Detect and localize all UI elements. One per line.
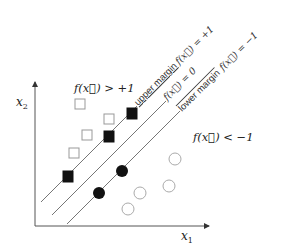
support-vector-square <box>127 108 137 119</box>
svg-text:f(x⃗) = +1: f(x⃗) = +1 <box>172 23 216 67</box>
open-circle-point <box>163 180 175 192</box>
support-vector-square <box>63 171 73 182</box>
filled-circles <box>93 165 128 199</box>
open-circles <box>122 153 181 215</box>
y-axis-label: x2 <box>16 95 28 111</box>
open-square-point <box>69 148 79 158</box>
svm-diagram: x2 x1 upper margin f(x⃗) = +1 f(x⃗) = 0 … <box>0 0 284 251</box>
open-square-point <box>104 114 114 124</box>
open-circle-point <box>134 187 146 199</box>
open-circle-point <box>169 153 181 165</box>
open-square-point <box>82 130 92 140</box>
support-vector-circle <box>93 187 105 199</box>
upper-margin-line <box>41 106 137 202</box>
open-circle-point <box>122 203 134 215</box>
svg-text:f(x⃗) = −1: f(x⃗) = −1 <box>216 29 260 73</box>
positive-region-label: f(x⃗) > +1 <box>73 81 135 95</box>
open-square-point <box>75 99 85 109</box>
x-axis-label: x1 <box>181 229 193 245</box>
open-squares <box>69 99 114 158</box>
support-vector-square <box>104 131 114 142</box>
support-vector-circle <box>116 165 128 177</box>
negative-region-label: f(x⃗) < −1 <box>192 130 254 144</box>
